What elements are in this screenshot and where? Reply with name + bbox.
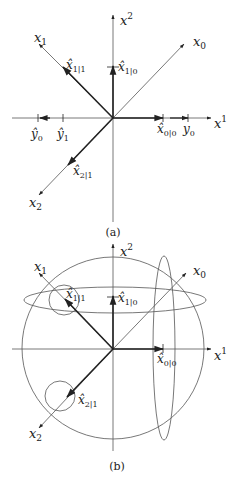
- panel-b: x2 x1 x0 x1 x2 x̂1|1 x̂1|0 x̂0|0 x̂2|1 (…: [12, 242, 227, 473]
- x0-line: [113, 44, 184, 118]
- figure: x2 x1 x0 x1 x2 x̂1|1 x̂1|0 x̂0|0 y0 ŷ0 ŷ…: [0, 0, 238, 484]
- label-x0-0-hat: x̂0|0: [157, 122, 177, 138]
- label-axis-x2-b: x2: [120, 242, 133, 259]
- horizontal-ellipse: [24, 287, 206, 313]
- label-axis-x1: x1: [214, 114, 227, 131]
- label-x1-0-hat-b: x̂1|0: [118, 291, 138, 307]
- label-x1-1-hat-b: x̂1|1: [66, 287, 86, 303]
- caption-a: (a): [105, 226, 120, 239]
- label-x2: x2: [29, 195, 42, 212]
- vertical-ellipse: [153, 256, 175, 440]
- label-x0: x0: [193, 34, 206, 51]
- x1-1-vector: [63, 67, 113, 118]
- caption-b: (b): [109, 460, 125, 473]
- label-axis-x1-b: x1: [214, 346, 227, 363]
- label-x1-1-hat: x̂1|1: [66, 58, 86, 74]
- label-x1-b: x1: [34, 259, 47, 276]
- label-axis-x2: x2: [120, 11, 133, 28]
- panel-a: x2 x1 x0 x1 x2 x̂1|1 x̂1|0 x̂0|0 y0 ŷ0 ŷ…: [12, 11, 227, 239]
- label-x1-0-hat: x̂1|0: [118, 60, 138, 76]
- label-y0: y0: [182, 122, 195, 138]
- x2-1-vector-b: [67, 349, 113, 397]
- label-x0-b: x0: [193, 263, 206, 280]
- small-circle-x2-1: [45, 381, 75, 411]
- label-y1-hat: ŷ1: [56, 127, 69, 143]
- label-y0-hat: ŷ0: [30, 127, 43, 143]
- label-x2-1-hat-b: x̂2|1: [78, 393, 98, 409]
- label-x1: x1: [34, 30, 47, 47]
- x1-1-vector-b: [65, 299, 113, 349]
- x2-1-vector: [68, 118, 113, 165]
- label-x0-0-hat-b: x̂0|0: [157, 352, 177, 368]
- label-x2-1-hat: x̂2|1: [73, 164, 93, 180]
- label-x2-b: x2: [29, 426, 42, 443]
